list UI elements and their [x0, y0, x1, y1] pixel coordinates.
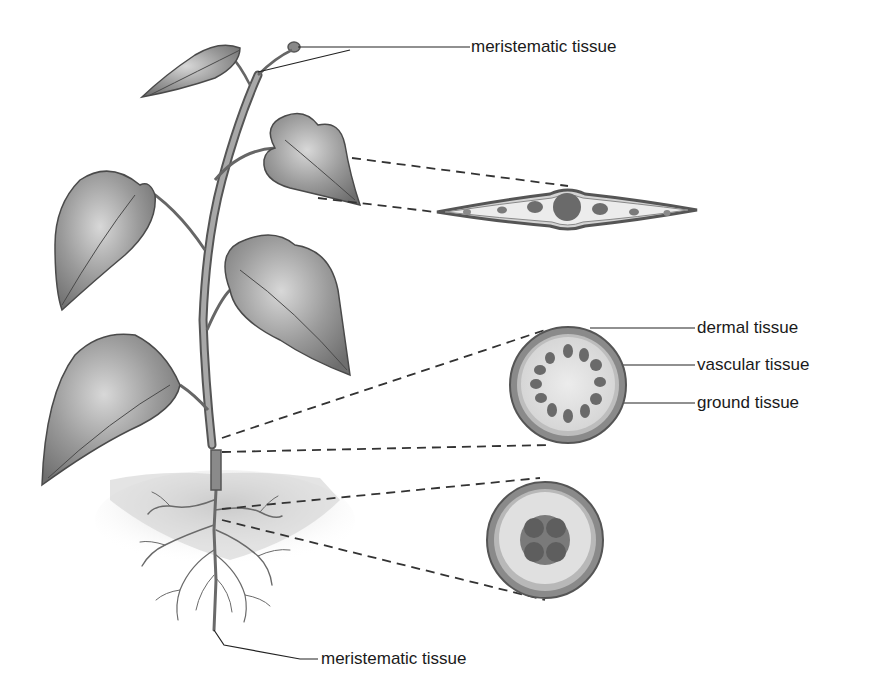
root-cross-section [487, 482, 603, 598]
label-ground-tissue: ground tissue [697, 394, 799, 411]
stem-cross-section [510, 327, 626, 443]
leaves [42, 45, 360, 485]
label-vascular-tissue: vascular tissue [697, 356, 809, 373]
label-dermal-tissue: dermal tissue [697, 319, 798, 336]
leaf-cross-section [437, 190, 697, 229]
plant-tissue-diagram: meristematic tissue dermal tissue vascul… [0, 0, 878, 693]
label-meristematic-tissue-bottom: meristematic tissue [321, 650, 466, 667]
label-meristematic-tissue-top: meristematic tissue [471, 38, 616, 55]
